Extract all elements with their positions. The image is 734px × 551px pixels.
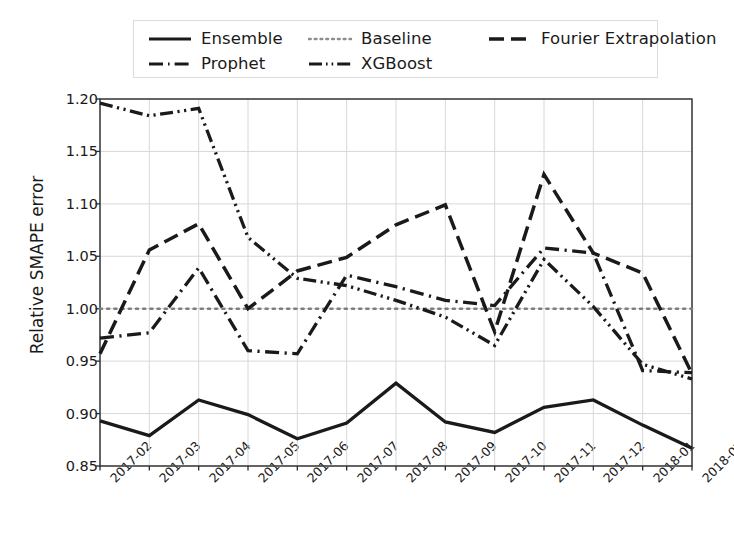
plot-area <box>0 0 734 551</box>
figure-chart: Ensemble Baseline Fourier Extrapolation <box>0 0 734 551</box>
